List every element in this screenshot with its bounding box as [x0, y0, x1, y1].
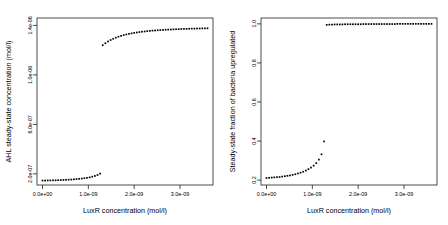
x-tick-label: 2.0e-09: [349, 191, 367, 197]
data-point: [344, 23, 346, 25]
data-point: [196, 28, 198, 30]
data-point: [123, 34, 125, 36]
y-tick-label: 1.4e-06: [27, 16, 33, 34]
x-tick-label: 2.0e-09: [125, 191, 143, 197]
data-point: [207, 27, 209, 29]
data-point: [431, 23, 433, 25]
data-point: [412, 23, 414, 25]
data-point: [42, 180, 44, 182]
data-point: [65, 179, 67, 181]
data-point: [144, 31, 146, 33]
x-tick-label: 1.0e-09: [303, 191, 321, 197]
data-point: [52, 179, 54, 181]
x-tick-label: 3.0e-09: [171, 191, 189, 197]
data-point: [294, 173, 296, 175]
data-point: [94, 175, 96, 177]
data-point: [175, 28, 177, 30]
data-point: [357, 23, 359, 25]
data-point: [297, 173, 299, 175]
data-point: [102, 44, 104, 46]
data-point: [70, 179, 72, 181]
data-point: [55, 179, 57, 181]
data-point: [81, 178, 83, 180]
data-point: [331, 24, 333, 26]
y-axis-title: AHL steady-state concentration (mol/l): [4, 41, 13, 163]
data-point: [91, 176, 93, 178]
y-tick-label: 1.0: [251, 20, 257, 28]
data-point: [318, 159, 320, 161]
data-point: [407, 23, 409, 25]
data-point: [115, 37, 117, 39]
data-point: [300, 172, 302, 174]
data-point: [44, 180, 46, 182]
chart-panel-right: 0.0e+001.0e-092.0e-093.0e-090.20.40.60.8…: [224, 0, 448, 225]
data-point: [99, 173, 101, 175]
data-point: [133, 32, 135, 34]
data-point: [342, 24, 344, 26]
data-point: [186, 28, 188, 30]
data-point: [199, 28, 201, 30]
data-point: [386, 23, 388, 25]
data-point: [157, 29, 159, 31]
plot-frame: [37, 18, 213, 185]
data-point: [180, 28, 182, 30]
data-point: [418, 23, 420, 25]
data-point: [425, 23, 427, 25]
data-point: [287, 175, 289, 177]
data-point: [389, 23, 391, 25]
data-point: [308, 168, 310, 170]
data-point: [349, 23, 351, 25]
data-point: [336, 24, 338, 26]
chart-panel-left: 0.0e+001.0e-092.0e-093.0e-092.0e-076.0e-…: [0, 0, 224, 225]
y-tick-label: 1.0e-06: [27, 66, 33, 84]
data-point: [284, 175, 286, 177]
data-point: [104, 42, 106, 44]
data-point: [131, 32, 133, 34]
data-point: [355, 23, 357, 25]
data-point: [281, 176, 283, 178]
data-point: [173, 29, 175, 31]
data-point: [162, 29, 164, 31]
data-series: [42, 27, 209, 181]
x-tick-label: 0.0e+00: [33, 191, 53, 197]
data-point: [125, 34, 127, 36]
data-point: [423, 23, 425, 25]
data-point: [360, 23, 362, 25]
data-point: [310, 167, 312, 169]
data-point: [376, 23, 378, 25]
data-point: [149, 30, 151, 32]
data-point: [201, 28, 203, 30]
data-point: [167, 29, 169, 31]
data-point: [313, 165, 315, 167]
data-point: [128, 33, 130, 35]
data-point: [365, 23, 367, 25]
data-point: [165, 29, 167, 31]
data-point: [47, 180, 49, 182]
data-point: [141, 31, 143, 33]
data-point: [397, 23, 399, 25]
plot-frame: [261, 18, 437, 185]
data-point: [292, 174, 294, 176]
data-point: [170, 29, 172, 31]
data-point: [302, 171, 304, 173]
y-tick-label: 0.4: [251, 137, 257, 145]
data-point: [383, 23, 385, 25]
data-point: [347, 23, 349, 25]
left-scatter-plot: 0.0e+001.0e-092.0e-093.0e-092.0e-076.0e-…: [0, 0, 224, 225]
y-tick-label: 0.6: [251, 98, 257, 106]
data-point: [391, 23, 393, 25]
x-tick-label: 0.0e+00: [257, 191, 277, 197]
figure-container: 0.0e+001.0e-092.0e-093.0e-092.0e-076.0e-…: [0, 0, 448, 225]
data-point: [404, 23, 406, 25]
data-point: [428, 23, 430, 25]
data-point: [323, 141, 325, 143]
data-point: [204, 28, 206, 30]
data-point: [378, 23, 380, 25]
data-point: [136, 32, 138, 34]
data-point: [276, 176, 278, 178]
x-axis-title: LuxR concentration (mol/l): [83, 206, 167, 215]
data-point: [76, 178, 78, 180]
data-point: [188, 28, 190, 30]
y-tick-label: 6.0e-07: [27, 115, 33, 133]
data-point: [363, 23, 365, 25]
